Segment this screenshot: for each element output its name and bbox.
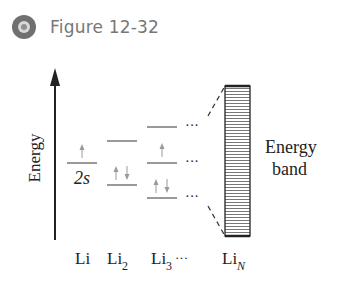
label-li3: Li: [151, 249, 166, 268]
label-li2-sub: 2: [122, 259, 128, 273]
band-label-line1: Energy: [265, 137, 317, 157]
dashed-connector-top: [208, 86, 225, 116]
axis-label: Energy: [25, 133, 44, 182]
energy-band-rect: [225, 86, 250, 236]
label-lin: Li: [222, 249, 237, 268]
li-levels: [67, 144, 97, 163]
orbital-label: 2s: [74, 168, 90, 188]
spin-up-icon: [154, 179, 159, 185]
ellipsis-top: ···: [185, 118, 199, 133]
label-li3-sub: 3: [166, 259, 172, 273]
li2-levels: [107, 141, 137, 185]
spin-down-icon: [125, 174, 130, 180]
band-label-line2: band: [272, 159, 307, 179]
energy-axis: [50, 68, 60, 240]
label-lin-sub: N: [236, 259, 246, 273]
label-li: Li: [75, 249, 90, 268]
arrow-up-icon: [50, 68, 60, 86]
li3-levels: [147, 127, 177, 198]
spin-up-icon: [114, 166, 119, 172]
spin-down-icon: [165, 187, 170, 193]
label-ellipsis: ···: [175, 250, 188, 265]
energy-band-diagram: Energy 2s ··· ··· ···: [0, 0, 346, 283]
ellipsis-bottom: ···: [185, 189, 199, 204]
spin-up-icon: [160, 143, 165, 149]
column-labels: Li Li 2 Li 3 ··· Li N: [75, 249, 246, 273]
spin-up-icon: [80, 144, 85, 150]
label-li2: Li: [107, 249, 122, 268]
dashed-connector-bottom: [208, 206, 225, 236]
ellipsis-mid: ···: [185, 154, 199, 169]
